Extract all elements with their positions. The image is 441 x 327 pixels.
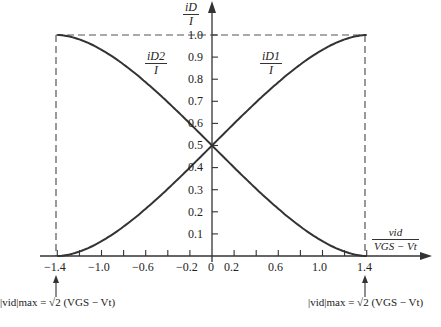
curve-label-id2: iD2 I: [145, 50, 167, 77]
annotation-right: |vid|max = √2 (VGS − Vt): [308, 296, 423, 308]
curve-label-id1-num: iD1: [260, 50, 282, 64]
x-tick-label: 1.0: [312, 260, 327, 275]
y-axis-label-den: I: [183, 15, 199, 28]
x-axis-label-num: vid: [372, 226, 419, 240]
y-tick-label: 0.7: [188, 94, 203, 109]
y-ticks: [212, 35, 218, 234]
y-tick-label: 0.2: [188, 205, 203, 220]
annotation-arrows: [53, 275, 368, 297]
y-tick-label: 0.8: [188, 72, 203, 87]
x-tick-label: −1.4: [44, 260, 66, 275]
x-tick-label: 0.6: [268, 260, 283, 275]
curve-label-id1: iD1 I: [260, 50, 282, 77]
curve-label-id2-num: iD2: [145, 50, 167, 64]
x-axis-label: vid VGS − Vt: [372, 226, 419, 253]
x-tick-label: 1.4: [357, 260, 372, 275]
y-tick-label: 1.0: [188, 28, 203, 43]
y-tick-label: 0.4: [188, 160, 203, 175]
x-tick-label: −0.6: [132, 260, 154, 275]
x-tick-label: 0: [208, 260, 214, 275]
y-tick-label: 0.9: [188, 50, 203, 65]
dashed-bounds: [56, 35, 365, 256]
y-tick-label: 0.3: [188, 183, 203, 198]
curve-label-id1-den: I: [260, 64, 282, 77]
x-tick-label: 0.2: [224, 260, 239, 275]
x-axis-label-den: VGS − Vt: [372, 240, 419, 253]
y-tick-label: 0.1: [188, 227, 203, 242]
axes: [40, 1, 432, 262]
annotation-left: |vid|max = √2 (VGS − Vt): [0, 296, 115, 308]
curve-label-id2-den: I: [145, 64, 167, 77]
x-tick-label: −0.2: [176, 260, 198, 275]
chart-canvas: [0, 0, 441, 327]
y-tick-label: 0.5: [188, 138, 203, 153]
x-tick-label: −1.0: [88, 260, 110, 275]
y-axis-label-num: iD: [183, 1, 199, 15]
y-tick-label: 0.6: [188, 116, 203, 131]
y-axis-label: iD I: [183, 1, 199, 28]
